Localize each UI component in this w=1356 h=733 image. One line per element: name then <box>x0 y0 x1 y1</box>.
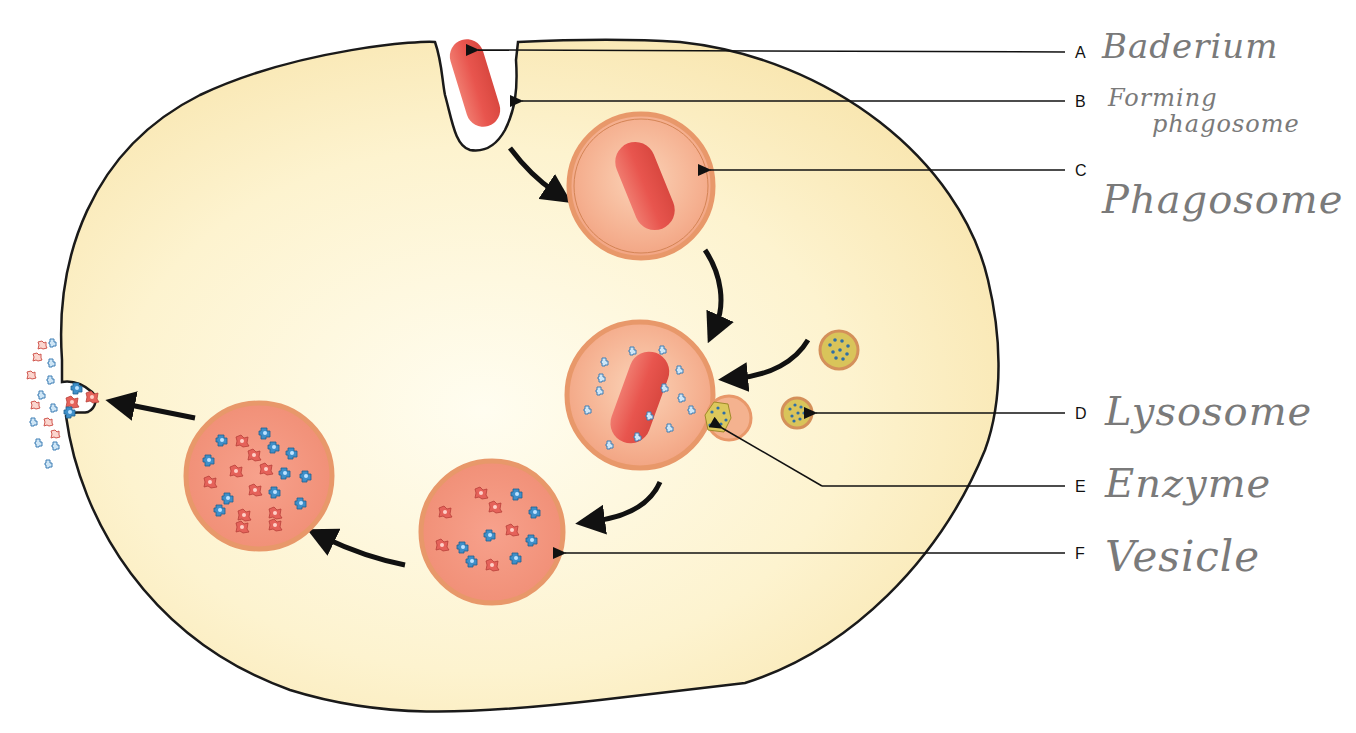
phagosome <box>569 114 713 258</box>
label-letter-d: D <box>1075 405 1087 423</box>
label-letter-e: E <box>1075 478 1086 496</box>
answer-b-line1: Forming <box>1108 86 1218 110</box>
label-letter-c: C <box>1075 162 1087 180</box>
answer-e-enzyme: Enzyme <box>1105 460 1271 506</box>
answer-d-lysosome: Lysosome <box>1105 388 1312 434</box>
vesicle <box>421 461 563 603</box>
lysosome <box>782 398 812 428</box>
answer-b-line2: phagosome <box>1152 112 1300 136</box>
cell-membrane <box>61 40 998 712</box>
label-letter-a: A <box>1075 44 1086 62</box>
lysosome-free <box>820 331 858 369</box>
label-letter-b: B <box>1075 93 1086 111</box>
answer-c-phagosome: Phagosome <box>1102 176 1343 222</box>
answer-a-bacterium: Baderium <box>1102 26 1278 66</box>
answer-f-vesicle: Vesicle <box>1105 532 1260 581</box>
residual-vesicle <box>186 403 332 549</box>
label-letter-f: F <box>1075 545 1085 563</box>
